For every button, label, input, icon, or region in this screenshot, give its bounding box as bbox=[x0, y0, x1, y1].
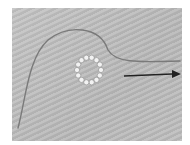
arrow-right-icon bbox=[124, 70, 181, 78]
photo-illustration bbox=[12, 8, 182, 141]
bead bbox=[74, 67, 79, 72]
bead bbox=[97, 73, 102, 78]
bead bbox=[97, 62, 102, 67]
bead bbox=[84, 80, 89, 85]
bead bbox=[79, 77, 84, 82]
bead bbox=[89, 55, 94, 60]
bead bbox=[94, 58, 99, 63]
bead bbox=[76, 73, 81, 78]
bead bbox=[79, 58, 84, 63]
bead bbox=[76, 62, 81, 67]
bead-loop bbox=[74, 55, 103, 85]
bead bbox=[98, 67, 103, 72]
bead bbox=[84, 55, 89, 60]
bead bbox=[89, 80, 94, 85]
craft-photo bbox=[12, 8, 182, 141]
bead bbox=[94, 77, 99, 82]
